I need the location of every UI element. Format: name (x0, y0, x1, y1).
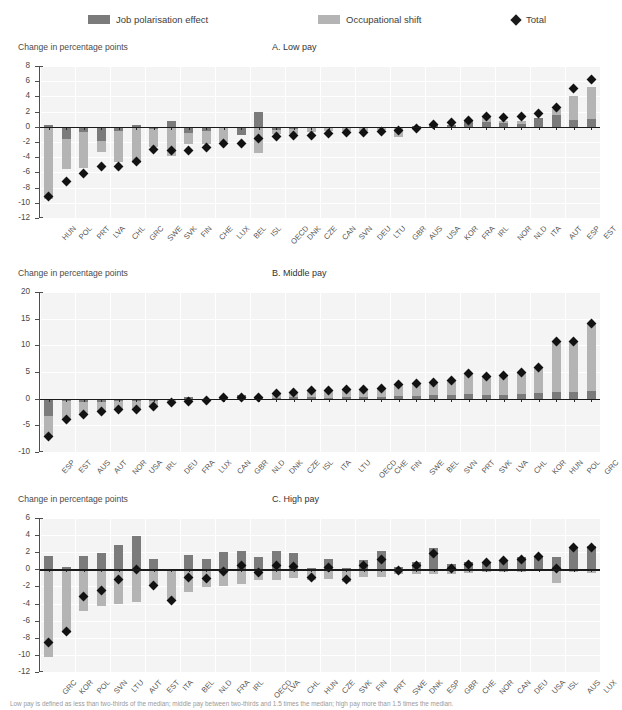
x-axis-category-label: SVK (357, 678, 374, 695)
y-axis-tick (35, 127, 39, 128)
x-axis-category-label: AUS (585, 678, 602, 696)
gridline-horizontal (40, 218, 600, 219)
bar-occupational-shift (62, 569, 71, 633)
x-axis-category-label: DEU (182, 458, 200, 476)
plot-area-c (40, 518, 600, 672)
gridline-vertical (250, 518, 251, 672)
x-axis-category-label: IRL (164, 458, 179, 473)
y-axis-label: 20 (8, 288, 30, 296)
bar-occupational-shift (44, 127, 53, 199)
y-axis-tick (35, 172, 39, 173)
x-axis-category-label: LVA (111, 224, 127, 240)
gridline-vertical (565, 66, 566, 218)
plot-area-a (40, 66, 600, 218)
bar-occupational-shift (587, 323, 596, 398)
gridline-vertical (215, 292, 216, 452)
x-axis-category-label: ITA (181, 678, 195, 692)
y-axis-label: 4 (8, 531, 30, 539)
x-axis-category-label: ISL (268, 224, 282, 238)
y-axis-label: -2 (8, 582, 30, 590)
x-axis-category-label: BEL (252, 224, 268, 241)
x-axis-category-label: KOR (550, 458, 568, 476)
gridline-vertical (75, 66, 76, 218)
y-axis-tick (35, 452, 39, 453)
y-axis-tick (35, 569, 39, 570)
panel-title-b: B. Middle pay (272, 268, 327, 278)
gridline-vertical (215, 66, 216, 218)
y-axis-label: -8 (8, 184, 30, 192)
gridline-vertical (320, 518, 321, 672)
y-axis-tick (35, 96, 39, 97)
x-axis-category-label: POL (585, 458, 602, 475)
x-axis-category-label: POL (77, 224, 94, 241)
gridline-vertical (250, 66, 251, 218)
bar-occupational-shift (552, 342, 561, 399)
gridline-vertical (600, 518, 601, 672)
gridline-vertical (600, 292, 601, 452)
x-axis-category-label: LUX (234, 224, 251, 241)
y-axis-label: 5 (8, 368, 30, 376)
gridline-vertical (390, 66, 391, 218)
y-axis-label: -8 (8, 634, 30, 642)
gridline-vertical (600, 66, 601, 218)
x-axis-category-label: IRL (251, 678, 266, 693)
y-axis-tick (35, 535, 39, 536)
y-axis-tick (35, 672, 39, 673)
x-axis-category-label: GRC (603, 458, 621, 476)
gridline-vertical (40, 66, 41, 218)
bar-job-polarisation (79, 556, 88, 570)
x-axis-category-label: AUT (567, 224, 584, 241)
legend-item-occupational-shift: Occupational shift (318, 14, 422, 25)
x-axis-category-label: USA (445, 224, 462, 242)
y-axis-label: -10 (8, 448, 30, 456)
bar-occupational-shift (79, 569, 88, 611)
gridline-vertical (565, 292, 566, 452)
x-axis-category-label: NLD (532, 224, 549, 241)
panel-middle-pay: Change in percentage points B. Middle pa… (0, 268, 622, 488)
total-marker (569, 84, 579, 94)
total-marker (534, 108, 544, 118)
total-marker (201, 396, 211, 406)
gridline-vertical (495, 292, 496, 452)
y-axis-cap (39, 451, 43, 452)
gridline-vertical (285, 66, 286, 218)
total-marker (219, 393, 229, 403)
panel-low-pay: Change in percentage points A. Low pay 8… (0, 42, 622, 254)
x-axis-category-label: LTU (392, 224, 408, 240)
gridline-vertical (180, 66, 181, 218)
x-axis-category-label: LUX (217, 458, 234, 475)
gridline-vertical (110, 292, 111, 452)
x-axis-category-label: CHL (532, 458, 549, 475)
chart-page: Job polarisation effect Occupational shi… (0, 0, 622, 710)
zero-line (40, 127, 600, 128)
gridline-vertical (390, 292, 391, 452)
x-axis-category-label: CHE (217, 224, 235, 242)
y-axis-tick (35, 188, 39, 189)
x-axis-category-label: HUN (60, 224, 78, 242)
bar-job-polarisation (202, 559, 211, 569)
bar-occupational-shift (114, 127, 123, 162)
x-axis-category-label: GRC (60, 678, 78, 696)
gridline-vertical (75, 518, 76, 672)
y-axis-tick (35, 604, 39, 605)
x-axis-category-label: IRL (496, 224, 511, 239)
gridline-vertical (425, 292, 426, 452)
y-axis-label: -6 (8, 168, 30, 176)
x-axis-category-label: CHL (130, 224, 147, 241)
legend-item-total: Total (512, 14, 546, 25)
zero-line (40, 569, 600, 570)
axis-title-a: Change in percentage points (18, 42, 128, 52)
y-axis-line (39, 66, 40, 218)
gridline-vertical (530, 292, 531, 452)
legend-label-job-polarisation: Job polarisation effect (116, 14, 208, 25)
y-axis-tick (35, 112, 39, 113)
y-axis-label: 2 (8, 108, 30, 116)
y-axis-tick (35, 586, 39, 587)
bar-occupational-shift (569, 341, 578, 399)
y-axis-label: -4 (8, 153, 30, 161)
total-marker (114, 161, 124, 171)
y-axis-tick (35, 203, 39, 204)
y-axis-label: 2 (8, 548, 30, 556)
x-axis-category-label: ESP (585, 224, 602, 241)
bar-job-polarisation (534, 118, 543, 126)
